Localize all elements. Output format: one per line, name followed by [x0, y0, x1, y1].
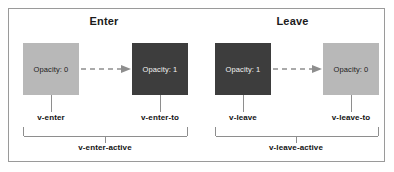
bracket-stem-v-leave-active — [296, 136, 297, 143]
class-label-v-enter-to: v-enter-to — [141, 113, 179, 122]
tick-line-v-enter — [51, 95, 52, 112]
diagram-canvas: Enter Opacity: 0 Opacity: 1 v-enter v-en… — [0, 0, 394, 172]
state-box-opacity-label: Opacity: 0 — [34, 65, 69, 74]
section-title-enter: Enter — [9, 15, 199, 27]
state-box-v-leave: Opacity: 1 — [215, 43, 271, 95]
tick-line-v-leave-to — [351, 95, 352, 112]
class-label-v-leave: v-leave — [229, 113, 257, 122]
state-box-v-enter: Opacity: 0 — [23, 43, 79, 95]
transition-section-enter: Enter Opacity: 0 Opacity: 1 v-enter v-en… — [9, 9, 199, 161]
state-box-opacity-label: Opacity: 0 — [334, 65, 369, 74]
state-box-opacity-label: Opacity: 1 — [143, 65, 178, 74]
state-box-v-enter-to: Opacity: 1 — [132, 43, 188, 95]
transition-section-leave: Leave Opacity: 1 Opacity: 0 v-leave v-le… — [199, 9, 386, 161]
bracket-v-leave-active — [215, 127, 379, 136]
tick-line-v-leave — [243, 95, 244, 112]
class-label-v-leave-active: v-leave-active — [269, 143, 323, 152]
dashed-arrow-right-icon — [273, 64, 323, 74]
section-title-leave: Leave — [199, 15, 386, 27]
class-label-v-leave-to: v-leave-to — [332, 113, 370, 122]
bracket-stem-v-enter-active — [105, 136, 106, 143]
bracket-v-enter-active — [23, 127, 188, 136]
dashed-arrow-right-icon — [81, 64, 132, 74]
class-label-v-enter-active: v-enter-active — [78, 143, 131, 152]
class-label-v-enter: v-enter — [37, 113, 64, 122]
state-box-opacity-label: Opacity: 1 — [226, 65, 261, 74]
state-box-v-leave-to: Opacity: 0 — [323, 43, 379, 95]
diagram-frame: Enter Opacity: 0 Opacity: 1 v-enter v-en… — [8, 8, 385, 162]
tick-line-v-enter-to — [160, 95, 161, 112]
